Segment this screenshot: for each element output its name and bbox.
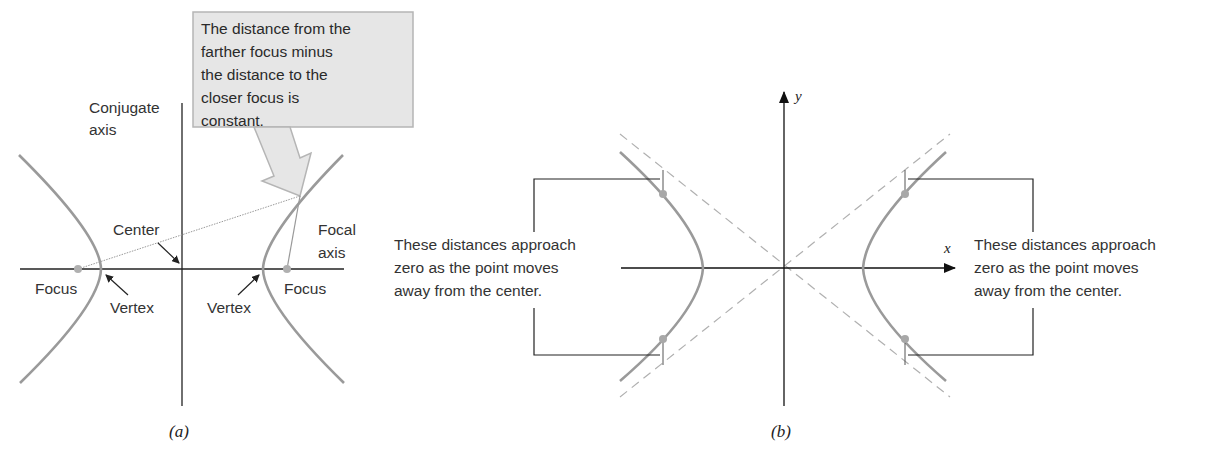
focus-left-point [74, 265, 82, 273]
left-bracket-bottom [534, 308, 660, 355]
vertex-right-label: Vertex [207, 298, 251, 317]
right-note-line2: zero as the point moves [974, 256, 1139, 279]
center-pointer-arrow [158, 243, 179, 263]
distance-line-near [287, 196, 300, 269]
focus-right-point [283, 265, 291, 273]
right-note-line3: away from the center. [974, 279, 1122, 302]
hyperbola-left-branch-b [620, 152, 703, 381]
vertex-right-pointer-arrow [238, 275, 259, 295]
vertex-left-label: Vertex [110, 298, 154, 317]
curve-point-ll [659, 335, 667, 343]
right-note-line1: These distances approach [974, 233, 1156, 256]
callout-arrow-icon [254, 127, 311, 196]
caption-b: (b) [771, 422, 791, 442]
conjugate-axis-label-line2: axis [89, 120, 117, 139]
focus-right-label: Focus [284, 279, 326, 298]
focal-axis-label-line1: Focal [318, 220, 356, 239]
focal-axis-label-line2: axis [318, 243, 346, 262]
conjugate-axis-label-line1: Conjugate [89, 98, 160, 117]
right-bracket-top [908, 179, 1033, 232]
x-axis-label: x [944, 240, 951, 257]
vertex-left-pointer-arrow [106, 275, 128, 295]
figure-b [534, 92, 1033, 406]
left-note-line2: zero as the point moves [394, 256, 559, 279]
caption-a: (a) [169, 422, 189, 442]
left-note-line3: away from the center. [394, 279, 542, 302]
y-axis-label: y [795, 88, 802, 105]
curve-point-ul [659, 190, 667, 198]
diagram-canvas [0, 0, 1206, 459]
left-note-line1: These distances approach [394, 233, 576, 256]
distance-line-far [78, 196, 300, 269]
right-bracket-bottom [908, 308, 1033, 355]
left-bracket-top [534, 179, 660, 232]
curve-point-lr [901, 335, 909, 343]
focus-left-label: Focus [35, 279, 77, 298]
callout-text: The distance from the farther focus minu… [201, 17, 351, 132]
curve-point-ur [901, 190, 909, 198]
center-label: Center [113, 220, 160, 239]
